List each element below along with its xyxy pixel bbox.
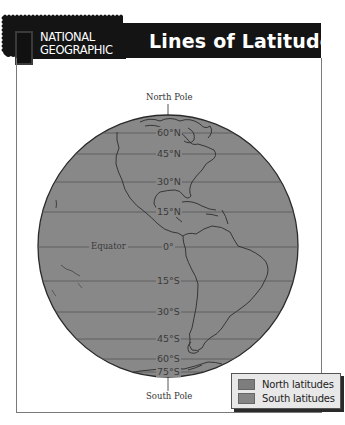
latitude-label-60s: 60°S [156, 353, 181, 364]
north-pole-label: North Pole [146, 92, 192, 102]
latitude-label-45s: 45°S [156, 333, 181, 344]
north-latitudes-swatch-icon [238, 379, 255, 390]
latitude-label-15s: 15°S [156, 275, 181, 286]
legend-item-south: South latitudes [238, 391, 335, 405]
latitude-label-60n: 60°N [156, 127, 182, 138]
south-latitudes-swatch-icon [238, 393, 255, 404]
latitude-label-30n: 30°N [156, 176, 182, 187]
latitude-label-75s: 75°S [156, 366, 181, 377]
south-pole-label: South Pole [146, 391, 192, 401]
latitude-label-15n: 15°N [156, 206, 182, 217]
equator-label: Equator [89, 241, 128, 252]
latitude-label-30s: 30°S [156, 306, 181, 317]
legend-item-north: North latitudes [238, 377, 334, 391]
latitude-label-0: 0° [162, 241, 175, 252]
latitude-label-45n: 45°N [156, 148, 182, 159]
legend: North latitudes South latitudes [231, 373, 341, 409]
